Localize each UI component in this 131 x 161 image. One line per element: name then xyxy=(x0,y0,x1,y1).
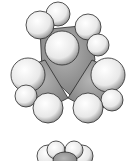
hydrogen-atoms xyxy=(11,2,125,123)
molecule-illustration xyxy=(0,0,131,161)
second-molecule-partial xyxy=(37,141,93,161)
